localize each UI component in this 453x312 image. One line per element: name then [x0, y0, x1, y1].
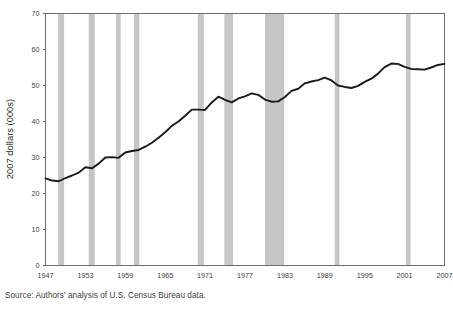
y-tick-label: 40 [32, 117, 40, 126]
x-tick-label: 1971 [197, 271, 213, 280]
recession-band [58, 14, 64, 266]
income-line-chart: 010203040506070 194719531959196519711977… [0, 0, 453, 290]
y-tick-label: 0 [36, 261, 40, 270]
x-tick-label: 2007 [437, 271, 453, 280]
x-tick-label: 1983 [277, 271, 293, 280]
y-tick-label: 30 [32, 153, 40, 162]
x-tick-label: 1989 [317, 271, 333, 280]
y-axis-ticks: 010203040506070 [32, 9, 46, 270]
y-tick-label: 70 [32, 9, 40, 18]
x-tick-label: 2001 [397, 271, 413, 280]
x-tick-label: 1977 [237, 271, 253, 280]
y-axis-title: 2007 dollars (000s) [4, 99, 15, 179]
x-tick-label: 1965 [157, 271, 173, 280]
plot-frame [46, 14, 445, 266]
recession-band [89, 14, 95, 266]
recession-band [265, 14, 284, 266]
y-tick-label: 20 [32, 189, 40, 198]
x-tick-label: 1995 [357, 271, 373, 280]
y-tick-label: 10 [32, 225, 40, 234]
recession-band [134, 14, 139, 266]
median-income-line [46, 64, 445, 182]
recession-band [406, 14, 411, 266]
x-tick-label: 1953 [77, 271, 93, 280]
recession-band [116, 14, 121, 266]
x-axis-ticks: 1947195319591965197119771983198919952001… [38, 271, 453, 280]
y-tick-label: 50 [32, 81, 40, 90]
data-line-group [46, 64, 445, 182]
x-tick-label: 1959 [117, 271, 133, 280]
recession-bands-group [58, 14, 410, 266]
y-tick-label: 60 [32, 45, 40, 54]
source-note: Source: Authors' analysis of U.S. Census… [5, 291, 206, 300]
recession-band [335, 14, 340, 266]
recession-band [224, 14, 233, 266]
x-tick-label: 1947 [38, 271, 54, 280]
recession-band [198, 14, 204, 266]
chart-figure: 010203040506070 194719531959196519711977… [0, 0, 453, 312]
